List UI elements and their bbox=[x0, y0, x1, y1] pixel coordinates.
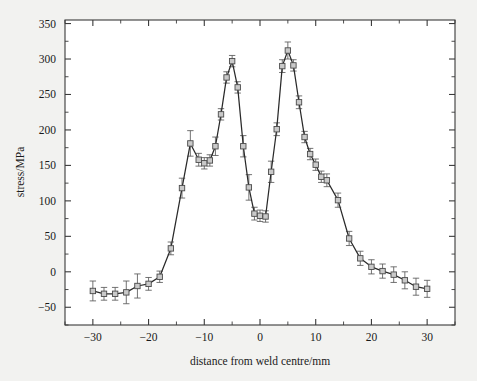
chart-figure: −30−20−100102030−50050100150200250300350… bbox=[0, 0, 477, 381]
data-point-marker bbox=[391, 272, 396, 277]
data-point-marker bbox=[263, 214, 268, 219]
data-point-marker bbox=[369, 264, 374, 269]
x-tick-label: −20 bbox=[140, 331, 158, 343]
y-tick-label: −50 bbox=[38, 301, 56, 313]
data-point-marker bbox=[257, 213, 262, 218]
data-point-marker bbox=[224, 75, 229, 80]
residual-stress-plot: −30−20−100102030−50050100150200250300350… bbox=[0, 0, 477, 381]
data-point-marker bbox=[235, 85, 240, 90]
data-point-marker bbox=[402, 278, 407, 283]
data-point-marker bbox=[157, 274, 162, 279]
x-tick-label: −30 bbox=[84, 331, 102, 343]
data-point-marker bbox=[218, 112, 223, 117]
data-point-marker bbox=[413, 284, 418, 289]
data-point-marker bbox=[296, 100, 301, 105]
plot-area-background bbox=[65, 20, 455, 325]
data-point-marker bbox=[112, 291, 117, 296]
data-point-marker bbox=[246, 185, 251, 190]
data-point-marker bbox=[179, 185, 184, 190]
data-point-marker bbox=[146, 281, 151, 286]
data-point-marker bbox=[101, 291, 106, 296]
data-point-marker bbox=[313, 162, 318, 167]
data-point-marker bbox=[196, 157, 201, 162]
data-point-marker bbox=[346, 236, 351, 241]
y-tick-label: 350 bbox=[39, 18, 57, 30]
data-point-marker bbox=[291, 63, 296, 68]
y-tick-label: 0 bbox=[50, 266, 56, 278]
data-point-marker bbox=[324, 178, 329, 183]
y-axis-label: stress/MPa bbox=[14, 147, 26, 197]
data-point-marker bbox=[90, 288, 95, 293]
y-tick-label: 300 bbox=[39, 53, 57, 65]
data-point-marker bbox=[241, 144, 246, 149]
data-point-marker bbox=[124, 290, 129, 295]
data-point-marker bbox=[188, 141, 193, 146]
data-point-marker bbox=[135, 283, 140, 288]
data-point-marker bbox=[302, 134, 307, 139]
data-point-marker bbox=[280, 63, 285, 68]
x-tick-label: −10 bbox=[195, 331, 213, 343]
data-point-marker bbox=[274, 127, 279, 132]
data-point-marker bbox=[285, 48, 290, 53]
data-point-marker bbox=[424, 286, 429, 291]
x-tick-label: 30 bbox=[421, 331, 433, 343]
y-tick-label: 150 bbox=[39, 159, 57, 171]
data-point-marker bbox=[213, 144, 218, 149]
data-point-marker bbox=[268, 169, 273, 174]
data-point-marker bbox=[307, 151, 312, 156]
data-point-marker bbox=[252, 211, 257, 216]
data-point-marker bbox=[207, 158, 212, 163]
data-point-marker bbox=[380, 268, 385, 273]
data-point-marker bbox=[358, 256, 363, 261]
y-tick-label: 100 bbox=[39, 195, 57, 207]
data-point-marker bbox=[319, 174, 324, 179]
x-axis-label: distance from weld centre/mm bbox=[190, 355, 330, 367]
x-tick-label: 20 bbox=[366, 331, 378, 343]
y-tick-label: 250 bbox=[39, 88, 57, 100]
y-tick-label: 200 bbox=[39, 124, 57, 136]
x-tick-label: 0 bbox=[257, 331, 263, 343]
x-tick-label: 10 bbox=[310, 331, 322, 343]
data-point-marker bbox=[202, 161, 207, 166]
data-point-marker bbox=[335, 197, 340, 202]
data-point-marker bbox=[229, 58, 234, 63]
data-point-marker bbox=[168, 246, 173, 251]
y-tick-label: 50 bbox=[45, 230, 57, 242]
